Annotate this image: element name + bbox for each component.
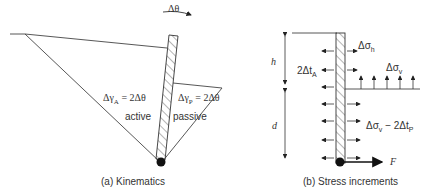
passive-ground-surface <box>173 83 222 88</box>
active-ground-surface <box>25 34 167 48</box>
caption-b: (b) Stress increments <box>303 176 398 187</box>
vertical-stress-arrows <box>361 76 413 89</box>
vertical-stress-label: Δσv <box>386 62 402 75</box>
active-strain-label: ΔγA = 2Δθ <box>103 92 146 106</box>
passive-region-label: passive <box>173 111 207 122</box>
force-label: F <box>390 156 396 167</box>
passive-stress-label: Δσv − 2ΔtP <box>366 120 413 133</box>
horizontal-stress-label: Δσh <box>358 40 375 53</box>
d-dimension-label: d <box>272 120 277 131</box>
rotation-label: Δθ <box>168 3 179 14</box>
active-region-label: active <box>125 111 151 122</box>
rotated-wall <box>156 35 178 160</box>
panel-b-stress-increments <box>285 33 420 167</box>
passive-strain-label: ΔγP = 2Δθ <box>178 92 220 106</box>
caption-a: (a) Kinematics <box>101 176 165 187</box>
wall <box>336 33 345 163</box>
h-dimension-label: h <box>271 56 276 67</box>
pivot-point-b <box>336 158 345 167</box>
pivot-point <box>157 158 166 167</box>
panel-a-kinematics <box>10 11 222 166</box>
active-shear-label: 2ΔtA <box>297 65 317 78</box>
